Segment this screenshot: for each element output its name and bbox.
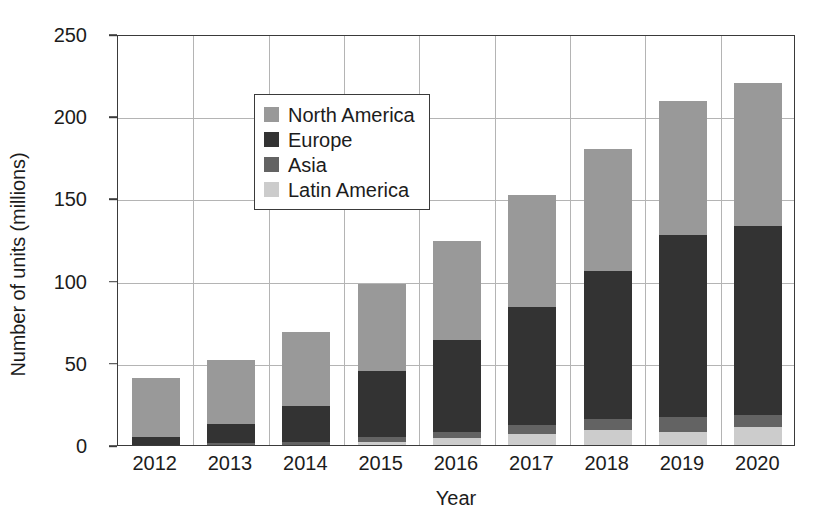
y-tick-mark-0 [109,445,117,447]
bar-segment-latin-america-2020[interactable] [734,427,782,445]
legend-item-label: Asia [288,155,327,175]
category-separator-5 [495,36,496,445]
bar-stack-2020[interactable] [734,83,782,445]
y-tick-label-50: 50 [27,352,87,375]
bar-segment-north-america-2020[interactable] [734,83,782,226]
y-tick-label-250: 250 [27,24,87,47]
bar-segment-europe-2019[interactable] [659,235,707,417]
bar-segment-latin-america-2018[interactable] [584,430,632,445]
bar-segment-asia-2013[interactable] [207,443,255,445]
y-tick-mark-100 [109,281,117,283]
legend-swatch-icon [264,182,279,197]
bar-segment-europe-2017[interactable] [508,307,556,425]
legend-item-asia[interactable]: Asia [264,152,415,177]
bar-segment-europe-2015[interactable] [358,371,406,437]
y-tick-mark-200 [109,116,117,118]
x-tick-label-2015: 2015 [341,452,421,475]
legend-item-north-america[interactable]: North America [264,102,415,127]
bar-segment-latin-america-2016[interactable] [433,438,481,445]
x-tick-label-2017: 2017 [491,452,571,475]
category-separator-1 [193,36,194,445]
bar-segment-europe-2020[interactable] [734,226,782,415]
bar-segment-latin-america-2019[interactable] [659,432,707,445]
chart-figure: Number of units (millions) 0501001502002… [0,0,818,529]
x-tick-label-2012: 2012 [115,452,195,475]
bar-segment-north-america-2016[interactable] [433,241,481,340]
legend-item-label: Europe [288,130,353,150]
legend-item-label: North America [288,105,415,125]
bar-segment-latin-america-2015[interactable] [358,442,406,445]
legend-swatch-icon [264,157,279,172]
bar-stack-2016[interactable] [433,241,481,445]
y-tick-mark-250 [109,34,117,36]
x-tick-label-2013: 2013 [190,452,270,475]
y-tick-label-0: 0 [27,435,87,458]
bar-stack-2012[interactable] [132,378,180,445]
bar-segment-latin-america-2017[interactable] [508,434,556,446]
legend-item-label: Latin America [288,180,409,200]
bar-stack-2017[interactable] [508,195,556,445]
legend-item-latin-america[interactable]: Latin America [264,177,415,202]
bar-segment-north-america-2019[interactable] [659,101,707,234]
bar-segment-north-america-2012[interactable] [132,378,180,437]
bar-segment-asia-2014[interactable] [282,442,330,445]
category-separator-6 [570,36,571,445]
bar-segment-north-america-2013[interactable] [207,360,255,424]
bar-segment-north-america-2017[interactable] [508,195,556,307]
legend-swatch-icon [264,132,279,147]
legend-swatch-icon [264,107,279,122]
bar-segment-europe-2014[interactable] [282,406,330,442]
bar-segment-asia-2017[interactable] [508,425,556,433]
y-tick-label-100: 100 [27,270,87,293]
bar-segment-asia-2019[interactable] [659,417,707,432]
bar-stack-2014[interactable] [282,332,330,445]
bar-segment-asia-2020[interactable] [734,415,782,427]
bar-stack-2018[interactable] [584,149,632,445]
y-tick-mark-150 [109,199,117,201]
bar-segment-asia-2018[interactable] [584,419,632,431]
bar-segment-north-america-2015[interactable] [358,284,406,371]
category-separator-7 [645,36,646,445]
y-tick-label-200: 200 [27,106,87,129]
bar-stack-2019[interactable] [659,101,707,445]
y-tick-label-150: 150 [27,188,87,211]
bar-segment-europe-2013[interactable] [207,424,255,444]
x-tick-label-2018: 2018 [567,452,647,475]
legend-item-europe[interactable]: Europe [264,127,415,152]
bar-segment-north-america-2014[interactable] [282,332,330,406]
plot-area: North AmericaEuropeAsiaLatin America [117,35,795,446]
bar-segment-north-america-2018[interactable] [584,149,632,271]
bar-segment-europe-2018[interactable] [584,271,632,419]
y-tick-mark-50 [109,363,117,365]
legend: North AmericaEuropeAsiaLatin America [254,94,430,210]
x-tick-label-2019: 2019 [642,452,722,475]
category-separator-8 [721,36,722,445]
bar-segment-europe-2012[interactable] [132,437,180,445]
bar-stack-2013[interactable] [207,360,255,445]
bar-segment-europe-2016[interactable] [433,340,481,432]
x-tick-label-2016: 2016 [416,452,496,475]
x-tick-label-2014: 2014 [265,452,345,475]
x-tick-label-2020: 2020 [717,452,797,475]
bar-stack-2015[interactable] [358,284,406,445]
x-axis-title: Year [117,487,795,510]
